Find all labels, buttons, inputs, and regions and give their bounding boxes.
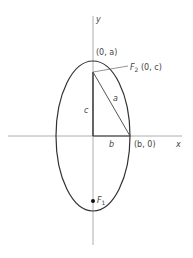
ellipse-diagram: y x (0, a) F2 (0, c) c a b (b, 0) F1 <box>0 0 193 258</box>
y-axis-label: y <box>95 15 101 24</box>
side-b-label: b <box>109 140 114 149</box>
top-vertex-label: (0, a) <box>96 48 117 57</box>
x-axis-label: x <box>175 140 181 149</box>
focus2-leader <box>93 66 128 72</box>
side-c-label: c <box>84 106 89 115</box>
side-a-label: a <box>113 94 118 103</box>
focus2-label: F2 (0, c) <box>130 63 162 73</box>
focus1-point <box>91 199 95 203</box>
focus1-label: F1 <box>97 196 106 206</box>
right-vertex-label: (b, 0) <box>134 140 156 149</box>
side-a-line <box>93 72 130 136</box>
